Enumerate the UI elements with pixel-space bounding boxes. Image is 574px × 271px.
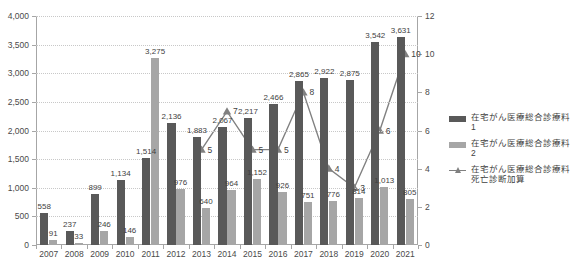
y2-axis-tick-label: 0 bbox=[425, 241, 430, 250]
x-axis-tick-mark bbox=[316, 245, 317, 249]
y-axis-tick-label: 1,000 bbox=[0, 184, 29, 193]
bar-series2[interactable] bbox=[406, 199, 414, 245]
x-axis-tick-label: 2010 bbox=[112, 250, 137, 259]
bar-series2[interactable] bbox=[126, 237, 134, 245]
y-axis-tick-label: 2,500 bbox=[0, 98, 29, 107]
bar-value-label-series1: 558 bbox=[31, 203, 57, 211]
bar-series1[interactable] bbox=[295, 81, 303, 245]
y-axis-tick-label: 3,500 bbox=[0, 41, 29, 50]
y-axis-tick-label: 1,500 bbox=[0, 155, 29, 164]
bar-series2[interactable] bbox=[253, 179, 261, 245]
y-axis-tick-mark bbox=[32, 45, 36, 46]
bar-series2[interactable] bbox=[176, 189, 184, 245]
bar-value-label-series2: 146 bbox=[117, 227, 143, 235]
y-axis-tick-label: 2,000 bbox=[0, 127, 29, 136]
bar-value-label-series1: 2,136 bbox=[158, 113, 184, 121]
bar-series2[interactable] bbox=[278, 192, 286, 245]
bar-value-label-series1: 1,883 bbox=[184, 127, 210, 135]
y2-axis-tick-mark bbox=[418, 131, 422, 132]
x-axis-tick-mark bbox=[342, 245, 343, 249]
x-axis-tick-label: 2015 bbox=[240, 250, 265, 259]
y2-axis-tick-mark bbox=[418, 16, 422, 17]
bar-series1[interactable] bbox=[142, 158, 150, 245]
bar-value-label-series1: 2,875 bbox=[337, 70, 363, 78]
bar-value-label-series2: 33 bbox=[66, 233, 92, 241]
legend-color-swatch-icon bbox=[449, 141, 466, 149]
chart-container: 在宅がん医療総合診療料1在宅がん医療総合診療料2在宅がん医療総合診療料 死亡診断… bbox=[0, 0, 574, 271]
legend-item[interactable]: 在宅がん医療総合診療料 死亡診断加算 bbox=[449, 164, 573, 184]
x-axis-tick-mark bbox=[36, 245, 37, 249]
bar-series1[interactable] bbox=[320, 78, 328, 245]
y-axis-tick-mark bbox=[32, 73, 36, 74]
y-axis-tick-mark bbox=[32, 188, 36, 189]
x-axis-tick-mark bbox=[61, 245, 62, 249]
grid-line bbox=[36, 16, 418, 17]
grid-line bbox=[36, 45, 418, 46]
line-value-label: 10 bbox=[411, 50, 420, 59]
line-marker[interactable] bbox=[223, 107, 231, 114]
bar-value-label-series2: 1,013 bbox=[371, 177, 397, 185]
x-axis-tick-mark bbox=[163, 245, 164, 249]
x-axis-tick-label: 2014 bbox=[214, 250, 239, 259]
y-axis-tick-mark bbox=[32, 16, 36, 17]
bar-series2[interactable] bbox=[75, 243, 83, 245]
line-value-label: 5 bbox=[258, 146, 263, 155]
y2-axis-tick-label: 10 bbox=[425, 50, 434, 59]
bar-series1[interactable] bbox=[346, 80, 354, 245]
bar-value-label-series2: 926 bbox=[269, 182, 295, 190]
bar-value-label-series2: 91 bbox=[40, 230, 66, 238]
line-value-label: 8 bbox=[309, 88, 314, 97]
bar-series2[interactable] bbox=[380, 187, 388, 245]
bar-value-label-series2: 3,275 bbox=[142, 48, 168, 56]
bar-value-label-series1: 1,514 bbox=[133, 148, 159, 156]
x-axis-tick-mark bbox=[112, 245, 113, 249]
bar-value-label-series1: 3,542 bbox=[362, 32, 388, 40]
x-axis-tick-mark bbox=[138, 245, 139, 249]
bar-value-label-series1: 3,631 bbox=[388, 27, 414, 35]
bar-value-label-series1: 2,922 bbox=[311, 68, 337, 76]
x-axis-tick-label: 2019 bbox=[342, 250, 367, 259]
bar-value-label-series1: 237 bbox=[57, 221, 83, 229]
x-axis-tick-label: 2008 bbox=[61, 250, 86, 259]
y-axis-tick-mark bbox=[32, 131, 36, 132]
x-axis-tick-mark bbox=[214, 245, 215, 249]
x-axis-tick-label: 2021 bbox=[393, 250, 418, 259]
bar-series1[interactable] bbox=[371, 42, 379, 245]
bar-value-label-series2: 751 bbox=[295, 192, 321, 200]
line-value-label: 6 bbox=[386, 127, 391, 136]
bar-series1[interactable] bbox=[117, 180, 125, 245]
bar-value-label-series1: 2,067 bbox=[209, 117, 235, 125]
bar-series2[interactable] bbox=[304, 202, 312, 245]
x-axis-tick-label: 2011 bbox=[138, 250, 163, 259]
bar-series1[interactable] bbox=[397, 37, 405, 245]
y-axis-tick-mark bbox=[32, 216, 36, 217]
legend-item[interactable]: 在宅がん医療総合診療料1 bbox=[449, 112, 573, 132]
bar-series1[interactable] bbox=[269, 104, 277, 245]
bar-series2[interactable] bbox=[329, 201, 337, 245]
bar-series2[interactable] bbox=[227, 190, 235, 245]
bar-value-label-series2: 776 bbox=[320, 191, 346, 199]
x-axis-tick-mark bbox=[189, 245, 190, 249]
bar-series1[interactable] bbox=[244, 118, 252, 245]
y2-axis-tick-label: 6 bbox=[425, 127, 430, 136]
y-axis-tick-label: 4,000 bbox=[0, 12, 29, 21]
bar-series2[interactable] bbox=[355, 198, 363, 245]
bar-series2[interactable] bbox=[49, 240, 57, 245]
bar-series2[interactable] bbox=[100, 231, 108, 245]
y2-axis-tick-label: 12 bbox=[425, 12, 434, 21]
plot-area bbox=[36, 16, 418, 245]
legend-item-label: 在宅がん医療総合診療料 死亡診断加算 bbox=[471, 164, 570, 184]
bar-series2[interactable] bbox=[202, 208, 210, 245]
y-axis-tick-label: 0 bbox=[0, 241, 29, 250]
chart-legend: 在宅がん医療総合診療料1在宅がん医療総合診療料2在宅がん医療総合診療料 死亡診断… bbox=[449, 112, 573, 190]
legend-line-marker-icon bbox=[449, 167, 466, 175]
line-value-label: 7 bbox=[233, 107, 238, 116]
y2-axis-tick-label: 8 bbox=[425, 88, 430, 97]
bar-series1[interactable] bbox=[193, 137, 201, 245]
y2-axis-tick-label: 4 bbox=[425, 165, 430, 174]
bar-value-label-series2: 964 bbox=[218, 180, 244, 188]
legend-item-label: 在宅がん医療総合診療料1 bbox=[471, 112, 573, 132]
y2-axis-tick-label: 2 bbox=[425, 203, 430, 212]
legend-item[interactable]: 在宅がん医療総合診療料2 bbox=[449, 138, 573, 158]
x-axis-tick-mark bbox=[418, 245, 419, 249]
